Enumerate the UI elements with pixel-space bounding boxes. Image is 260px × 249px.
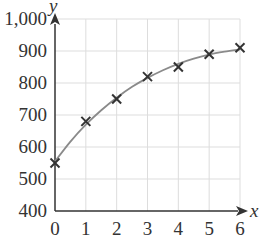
x-axis-label: x [249,200,259,221]
y-tick-label: 800 [19,72,48,93]
y-tick-label: 700 [19,104,48,125]
x-tick-label: 5 [204,218,214,239]
x-tick-label: 6 [235,218,245,239]
x-tick-labels: 0123456 [50,218,245,239]
x-tick-label: 4 [174,218,184,239]
x-tick-label: 3 [143,218,153,239]
x-tick-label: 2 [112,218,122,239]
y-tick-label: 500 [19,168,48,189]
chart: 0123456 4005006007008009001,000 x y [0,0,260,249]
y-tick-label: 400 [19,200,48,221]
y-axis-label: y [47,0,58,16]
y-tick-labels: 4005006007008009001,000 [4,8,47,221]
x-tick-label: 0 [50,218,60,239]
y-tick-label: 900 [19,40,48,61]
y-tick-label: 1,000 [4,8,47,29]
y-tick-label: 600 [19,136,48,157]
grid-lines [55,19,240,211]
x-tick-label: 1 [81,218,91,239]
